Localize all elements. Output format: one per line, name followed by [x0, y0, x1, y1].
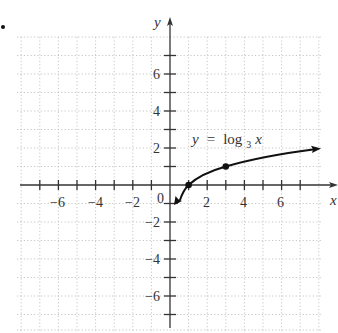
log-graph: y x 0 −6 −4 −2 2 4 6 6 4 2 −2 −4 −6 y = … [0, 0, 338, 333]
x-tick-label: 2 [203, 195, 210, 210]
x-axis-label: x [329, 192, 337, 208]
y-tick-label: 4 [153, 104, 160, 119]
y-tick-label: 2 [153, 141, 160, 156]
x-tick-label: −4 [88, 195, 103, 210]
problem-bullet [1, 25, 5, 29]
x-tick-label: 4 [240, 195, 247, 210]
x-tick-label: 6 [277, 195, 284, 210]
y-tick-label: −4 [145, 252, 160, 267]
x-axis [20, 180, 338, 190]
point-3-1 [223, 163, 230, 170]
y-tick-label: 6 [153, 67, 160, 82]
x-tick-label: −6 [50, 195, 65, 210]
origin-label: 0 [157, 191, 164, 206]
y-tick-label: −2 [145, 215, 160, 230]
point-1-0 [185, 182, 192, 189]
x-tick-label: −2 [125, 195, 140, 210]
y-tick-label: −6 [145, 289, 160, 304]
log-curve [174, 146, 321, 205]
y-axis [164, 17, 176, 328]
y-axis-label: y [152, 14, 161, 30]
